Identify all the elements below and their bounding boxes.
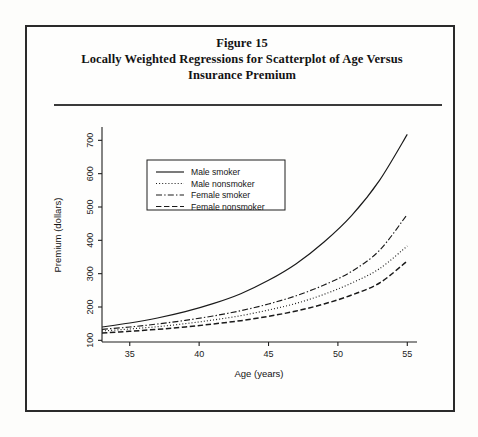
curve-female-smoker bbox=[102, 214, 407, 329]
x-tick-label: 35 bbox=[125, 349, 135, 359]
legend-item-label: Male nonsmoker bbox=[191, 179, 255, 189]
x-tick-label: 40 bbox=[194, 349, 204, 359]
curve-female-nonsmoker bbox=[102, 261, 407, 333]
y-tick-label: 500 bbox=[85, 199, 95, 214]
x-tick-label: 45 bbox=[264, 349, 274, 359]
legend-item-label: Male smoker bbox=[191, 167, 240, 177]
figure-page: Figure 15 Locally Weighted Regressions f… bbox=[0, 0, 478, 437]
chart-legend: Male smokerMale nonsmokerFemale smokerFe… bbox=[147, 160, 285, 212]
figure-border: Figure 15 Locally Weighted Regressions f… bbox=[25, 25, 455, 412]
x-axis-title: Age (years) bbox=[234, 368, 283, 379]
x-tick-label: 55 bbox=[402, 349, 412, 359]
x-axis-ticks: 3540455055 bbox=[125, 342, 413, 359]
y-axis-title: Premium (dollars) bbox=[52, 198, 63, 273]
regression-line-chart: 100200300400500600700 3540455055 Age (ye… bbox=[27, 27, 457, 414]
y-tick-label: 700 bbox=[85, 133, 95, 148]
y-tick-label: 400 bbox=[85, 233, 95, 248]
y-tick-label: 600 bbox=[85, 166, 95, 181]
y-tick-label: 200 bbox=[85, 299, 95, 314]
legend-item-label: Female nonsmoker bbox=[191, 202, 265, 212]
x-tick-label: 50 bbox=[333, 349, 343, 359]
legend-item-label: Female smoker bbox=[191, 190, 250, 200]
y-tick-label: 300 bbox=[85, 266, 95, 281]
y-tick-label: 100 bbox=[85, 333, 95, 348]
y-axis-ticks: 100200300400500600700 bbox=[85, 133, 102, 348]
plot-area: 100200300400500600700 3540455055 Age (ye… bbox=[27, 27, 457, 414]
